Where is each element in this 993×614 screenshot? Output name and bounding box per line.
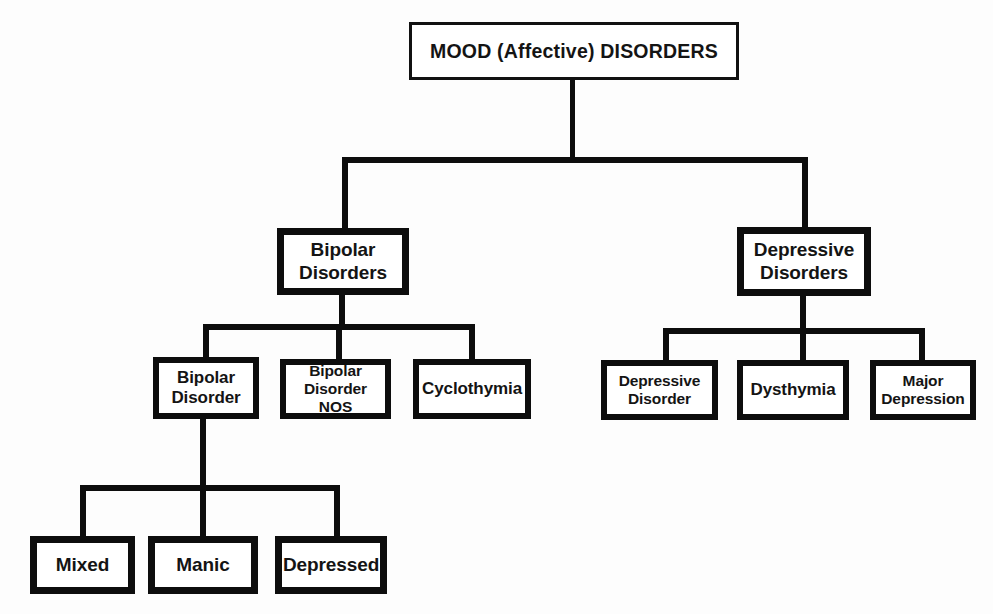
node-depressive-disorder[interactable]: Depressive Disorder	[601, 360, 718, 420]
connector-depressive-disorder-drop	[663, 328, 669, 362]
connector-depressive-disorders-drop	[802, 157, 808, 229]
connector-bipolar-disorder-nos-drop	[336, 324, 342, 360]
connector-root-drop	[570, 80, 575, 162]
node-bipolar-disorder-nos[interactable]: Bipolar Disorder NOS	[280, 359, 391, 419]
node-label-line1: Depressive	[619, 372, 701, 389]
connector-dysthymia-drop	[800, 328, 806, 362]
node-label-line2: Depression	[881, 390, 964, 407]
node-manic[interactable]: Manic	[148, 536, 258, 594]
node-label: Manic	[155, 554, 251, 576]
diagram-canvas: MOOD (Affective) DISORDERS Bipolar Disor…	[0, 0, 993, 614]
node-label: Cyclothymia	[418, 379, 526, 399]
node-label: Dysthymia	[743, 380, 843, 400]
node-label-line1: Bipolar	[177, 368, 235, 387]
node-cyclothymia[interactable]: Cyclothymia	[413, 359, 531, 419]
connector-depressive-branch-drop	[800, 296, 806, 332]
node-label-line1: Major	[903, 372, 944, 389]
node-label-line2: Disorder	[628, 390, 691, 407]
node-bipolar-disorders[interactable]: Bipolar Disorders	[277, 228, 409, 295]
node-depressed[interactable]: Depressed	[275, 536, 387, 594]
node-mixed[interactable]: Mixed	[30, 536, 135, 594]
node-major-depression[interactable]: Major Depression	[870, 360, 976, 420]
connector-manic-drop	[200, 485, 206, 537]
connector-level1-bus	[342, 157, 808, 163]
connector-bipolar-disorders-drop	[342, 157, 348, 229]
node-label-line2: Disorder NOS	[304, 380, 367, 415]
node-dysthymia[interactable]: Dysthymia	[737, 360, 849, 420]
connector-bipolar-subtypes-drop	[200, 418, 206, 490]
connector-cyclothymia-drop	[469, 324, 475, 360]
node-label: MOOD (Affective) DISORDERS	[412, 40, 736, 63]
connector-bipolar-disorder-drop	[203, 324, 209, 360]
node-depressive-disorders[interactable]: Depressive Disorders	[737, 227, 871, 296]
connector-major-depression-drop	[919, 328, 925, 362]
node-label-line2: Disorder	[171, 388, 240, 407]
node-mood-affective-disorders[interactable]: MOOD (Affective) DISORDERS	[409, 22, 739, 80]
connector-depressive-bus	[663, 328, 925, 334]
node-label-line2: Disorders	[299, 262, 387, 283]
connector-depressed-drop	[334, 485, 340, 537]
node-label: Depressed	[279, 554, 383, 576]
node-label-line1: Depressive	[754, 239, 854, 260]
node-label-line2: Disorders	[760, 262, 848, 283]
node-bipolar-disorder[interactable]: Bipolar Disorder	[153, 357, 259, 419]
node-label-line1: Bipolar	[309, 362, 362, 379]
connector-subtypes-bus	[80, 485, 340, 491]
node-label-line1: Bipolar	[311, 239, 376, 260]
node-label: Mixed	[37, 554, 128, 576]
connector-mixed-drop	[80, 485, 86, 537]
